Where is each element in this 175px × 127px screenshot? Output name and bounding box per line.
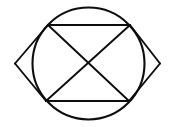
rhombus-edge-lower-left [15,64,46,102]
geometric-figure-svg [0,0,175,127]
figure-canvas [0,0,175,127]
rhombus-edge-upper-left [15,25,48,64]
